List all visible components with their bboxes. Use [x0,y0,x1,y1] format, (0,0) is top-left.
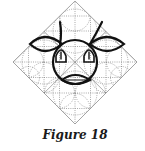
left-horn [60,22,61,44]
figure-18: Figure 18 [0,0,145,151]
figure-caption: Figure 18 [0,128,145,142]
